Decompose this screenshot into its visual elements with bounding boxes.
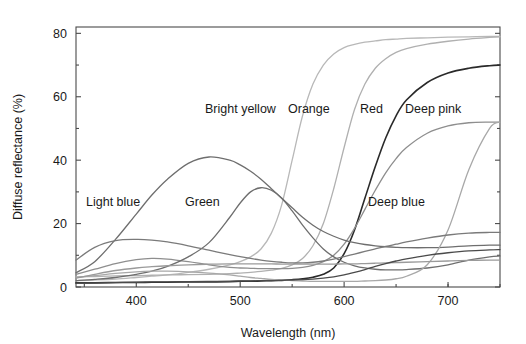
reflectance-chart: 020406080 400500600700 Bright yellowOran… xyxy=(0,0,526,344)
y-axis-title: Diffuse reflectance (%) xyxy=(11,94,25,220)
series-curve-bright-yellow xyxy=(76,36,500,280)
series-label-green: Green xyxy=(185,195,220,209)
x-tick-label: 500 xyxy=(230,294,251,308)
x-axis-title: Wavelength (nm) xyxy=(241,326,336,340)
spectral-reflectance-figure: 020406080 400500600700 Bright yellowOran… xyxy=(0,0,526,344)
series-labels: Bright yellowOrangeRedDeep pinkLight blu… xyxy=(86,102,462,209)
y-tick-label: 60 xyxy=(53,90,67,104)
series-label-deep-pink: Deep pink xyxy=(405,102,462,116)
y-tick-label: 40 xyxy=(53,154,67,168)
series-curves xyxy=(76,36,500,283)
series-curve-red xyxy=(76,65,500,283)
y-tick-label: 20 xyxy=(53,217,67,231)
y-tick-label: 80 xyxy=(53,27,67,41)
series-label-light-blue: Light blue xyxy=(86,195,140,209)
x-tick-label: 400 xyxy=(126,294,147,308)
series-label-orange: Orange xyxy=(288,102,330,116)
y-tick-label: 0 xyxy=(60,281,67,295)
series-label-deep-blue: Deep blue xyxy=(368,195,425,209)
series-curve-orange xyxy=(76,37,500,277)
x-tick-label: 700 xyxy=(438,294,459,308)
x-tick-label: 600 xyxy=(334,294,355,308)
series-label-bright-yellow: Bright yellow xyxy=(205,102,277,116)
x-axis-ticks: 400500600700 xyxy=(84,282,500,308)
series-curve-light-blue xyxy=(76,157,500,273)
series-label-red: Red xyxy=(360,102,383,116)
